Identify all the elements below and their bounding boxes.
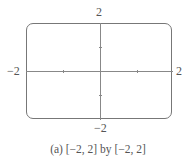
x-max-label: 2 xyxy=(176,65,182,77)
y-tick-neg1 xyxy=(99,95,102,96)
y-tick-pos1 xyxy=(99,47,102,48)
x-min-label: −2 xyxy=(7,65,20,77)
y-max-label: 2 xyxy=(96,6,102,18)
x-tick-pos1 xyxy=(137,70,138,73)
y-min-label: −2 xyxy=(94,122,107,134)
y-axis xyxy=(100,23,101,120)
figure-caption: (a) [−2, 2] by [−2, 2] xyxy=(0,143,196,155)
x-tick-neg1 xyxy=(63,70,64,73)
